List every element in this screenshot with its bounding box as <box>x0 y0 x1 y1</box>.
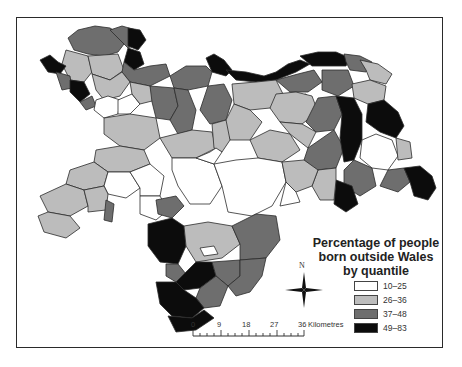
legend-title: Percentage of people born outside Wales … <box>312 236 440 278</box>
legend-swatch-dark-gray <box>354 309 378 319</box>
region-group-south-central <box>172 148 318 216</box>
compass-north-label: N <box>299 261 305 270</box>
scale-bar <box>192 328 308 338</box>
legend-title-line1: Percentage of people <box>312 236 440 250</box>
legend-swatch-light-gray <box>354 295 378 305</box>
legend-item-q4: 49–83 <box>354 323 407 332</box>
legend-item-q1: 10–25 <box>354 281 407 290</box>
legend-title-line3: by quantile <box>312 264 440 278</box>
legend-label: 37–48 <box>383 309 407 319</box>
scale-unit-label: Kilometres <box>308 320 343 329</box>
region-group-south <box>148 196 280 332</box>
legend-title-line2: born outside Wales <box>312 250 440 264</box>
legend-item-q2: 26–36 <box>354 295 407 304</box>
legend-swatch-white <box>354 281 378 291</box>
legend-label: 26–36 <box>383 295 407 305</box>
legend-label: 49–83 <box>383 323 407 333</box>
legend-label: 10–25 <box>383 281 407 291</box>
legend-swatch-black <box>354 323 378 333</box>
compass-rose-icon <box>284 271 324 309</box>
legend-item-q3: 37–48 <box>354 309 407 318</box>
